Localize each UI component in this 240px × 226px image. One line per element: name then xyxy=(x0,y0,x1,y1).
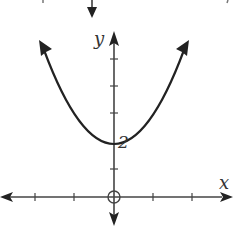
x-axis-label: x xyxy=(219,172,229,193)
y-axis-label: y xyxy=(93,28,105,49)
previous-figure-residue xyxy=(43,0,228,18)
y-intercept-label: 2 xyxy=(117,132,129,152)
x-axis: x xyxy=(0,172,233,202)
down-arrow-icon xyxy=(87,7,97,18)
parabola-graph: x y 2 xyxy=(0,0,240,226)
